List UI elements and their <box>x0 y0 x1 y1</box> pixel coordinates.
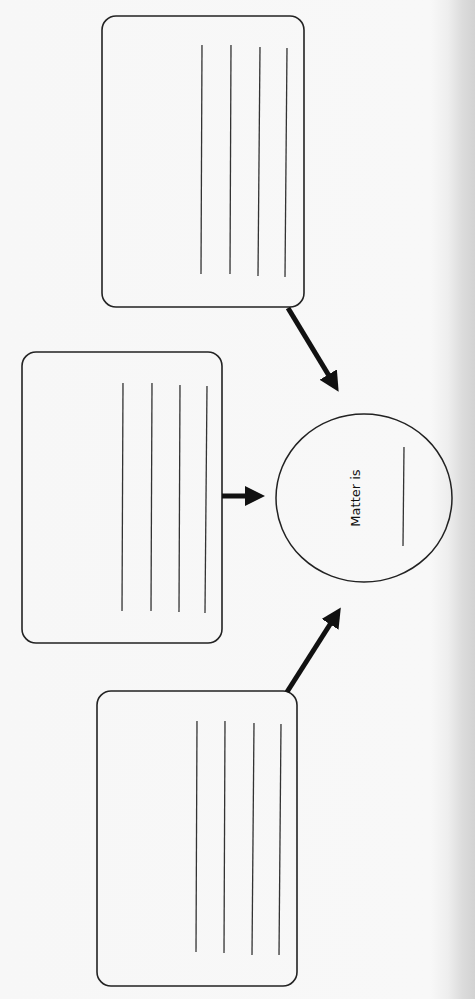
answer-line[interactable] <box>230 45 231 274</box>
arrow-top-to-center <box>288 308 334 384</box>
center-label: Matter is <box>348 469 363 526</box>
answer-line[interactable] <box>151 383 152 611</box>
answer-line[interactable] <box>196 721 197 952</box>
answer-line[interactable] <box>201 45 202 274</box>
middle-box <box>22 352 222 643</box>
answer-line[interactable] <box>122 383 123 611</box>
answer-line[interactable] <box>279 724 281 955</box>
top-box <box>102 16 304 307</box>
bottom-box <box>97 691 297 986</box>
answer-line[interactable] <box>258 47 260 276</box>
arrow-bottom-to-center <box>287 615 336 692</box>
answer-line[interactable] <box>205 386 207 613</box>
answer-line[interactable] <box>252 723 254 955</box>
center-answer-line[interactable] <box>403 447 404 546</box>
answer-line[interactable] <box>179 385 180 612</box>
graphic-organizer <box>0 0 475 999</box>
answer-line[interactable] <box>285 48 287 277</box>
answer-line[interactable] <box>224 721 225 953</box>
center-circle <box>276 414 452 582</box>
